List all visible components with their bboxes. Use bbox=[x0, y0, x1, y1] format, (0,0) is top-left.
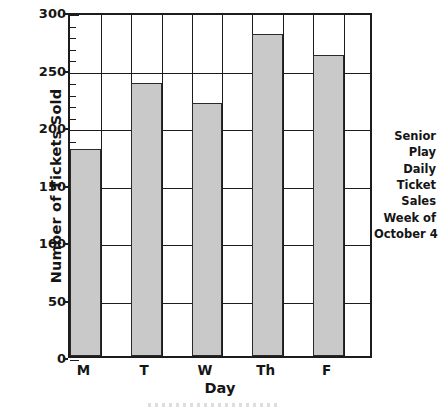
y-axis-minor-tick bbox=[70, 27, 76, 28]
caption-line-6: Week of bbox=[374, 210, 436, 226]
vertical-gridline bbox=[222, 15, 223, 356]
x-axis-tick-labels: MTWThF bbox=[68, 362, 372, 380]
caption-line-5: Sales bbox=[374, 193, 436, 209]
x-axis-tick-label: T bbox=[140, 362, 149, 378]
y-axis-major-tick bbox=[70, 73, 79, 74]
vertical-gridline bbox=[101, 15, 102, 356]
y-axis-outward-tick bbox=[63, 358, 68, 360]
caption-line-7: October 4 bbox=[374, 226, 436, 242]
y-axis-minor-tick bbox=[70, 96, 76, 97]
bar-chart-figure: Number of Tickets Sold 30025020015010050… bbox=[0, 0, 438, 411]
bar-t bbox=[131, 83, 162, 356]
bar-f bbox=[313, 55, 344, 356]
x-axis-title: Day bbox=[68, 380, 372, 396]
y-axis-major-tick bbox=[70, 360, 79, 361]
y-axis-major-tick bbox=[70, 130, 79, 131]
vertical-gridline bbox=[344, 15, 345, 356]
vertical-gridline bbox=[162, 15, 163, 356]
y-axis-minor-tick bbox=[70, 50, 76, 51]
plot-area bbox=[68, 13, 372, 358]
scan-artifact bbox=[148, 403, 280, 407]
bar-th bbox=[252, 34, 283, 356]
y-axis-minor-tick bbox=[70, 38, 76, 39]
y-axis-outward-tick bbox=[63, 243, 68, 245]
y-axis-minor-tick bbox=[70, 119, 76, 120]
y-axis-tick-label: 150 bbox=[28, 179, 66, 192]
y-axis-outward-tick bbox=[63, 186, 68, 188]
x-axis-tick-label: Th bbox=[256, 362, 275, 378]
caption-line-3: Daily bbox=[374, 161, 436, 177]
y-axis-tick-label: 250 bbox=[28, 64, 66, 77]
y-axis-outward-tick bbox=[63, 301, 68, 303]
y-axis-tick-labels: 300250200150100500 bbox=[28, 0, 66, 411]
plot-inner bbox=[70, 15, 370, 356]
y-axis-tick-label: 100 bbox=[28, 237, 66, 250]
y-axis-major-tick bbox=[70, 15, 79, 16]
y-axis-tick-label: 0 bbox=[28, 352, 66, 365]
y-axis-outward-tick bbox=[63, 13, 68, 15]
x-axis-tick-label: W bbox=[197, 362, 212, 378]
y-axis-minor-tick bbox=[70, 61, 76, 62]
y-axis-minor-tick bbox=[70, 107, 76, 108]
chart-caption: Senior Play Daily Ticket Sales Week of O… bbox=[374, 128, 436, 242]
y-axis-minor-tick bbox=[70, 84, 76, 85]
x-axis-tick-label: M bbox=[77, 362, 90, 378]
caption-line-2: Play bbox=[374, 144, 436, 160]
x-axis-tick-label: F bbox=[322, 362, 331, 378]
bar-m bbox=[70, 149, 101, 356]
y-axis-outward-tick bbox=[63, 71, 68, 73]
y-axis-outward-tick bbox=[63, 128, 68, 130]
vertical-gridline bbox=[283, 15, 284, 356]
y-axis-tick-label: 50 bbox=[28, 294, 66, 307]
caption-line-4: Ticket bbox=[374, 177, 436, 193]
y-axis-tick-label: 300 bbox=[28, 7, 66, 20]
y-axis-minor-tick bbox=[70, 142, 76, 143]
bar-w bbox=[192, 103, 223, 356]
y-axis-tick-label: 200 bbox=[28, 122, 66, 135]
caption-line-1: Senior bbox=[374, 128, 436, 144]
